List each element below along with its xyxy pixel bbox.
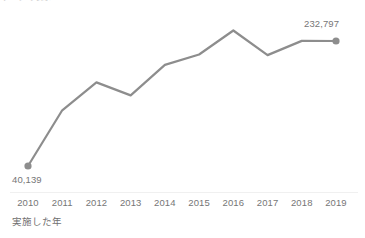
data-label-last: 232,797 bbox=[304, 18, 339, 29]
series-line-2010-2019 bbox=[28, 30, 336, 166]
line-chart: データの表示 40,139 232,797 201020112012201320… bbox=[0, 0, 365, 238]
data-point-marker-last[interactable] bbox=[332, 37, 339, 44]
x-axis-tick-2019: 2019 bbox=[316, 197, 356, 208]
x-axis-title: 実施した年 bbox=[12, 216, 62, 228]
data-label-first: 40,139 bbox=[12, 174, 42, 185]
data-point-marker-first[interactable] bbox=[24, 162, 31, 169]
